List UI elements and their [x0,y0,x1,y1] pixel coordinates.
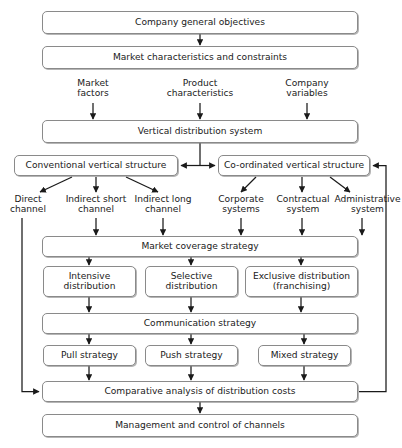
node-label: Management and control of channels [115,421,285,431]
label-market-factors: Market factors [62,78,124,98]
node-label: Intensive distribution [64,272,116,292]
label-line-1: Contractual [277,194,330,204]
node-company-general-objectives[interactable]: Company general objectives [42,11,358,34]
node-comparative-analysis-of-distribution-costs[interactable]: Comparative analysis of distribution cos… [42,381,358,402]
node-label: Communication strategy [144,319,257,329]
feedback-direct-channel-to-comparative [22,218,39,392]
label-line-1: Corporate [218,194,263,204]
label-line-1: Administrative [334,194,400,204]
label-line-2: channel [10,204,46,214]
node-label: Comparative analysis of distribution cos… [104,387,295,397]
node-market-characteristics-and-constraints[interactable]: Market characteristics and constraints [42,46,358,69]
label-line-2: characteristics [167,88,234,98]
label-line-2: factors [77,88,108,98]
arrow-coordinated-to-corporate [241,177,256,192]
label-line-1: Indirect [135,194,169,204]
node-label: Co-ordinated vertical structure [224,161,364,171]
label-direct-channel: Direct channel [0,194,56,214]
label-line-1: Market [77,78,108,88]
node-intensive-distribution[interactable]: Intensive distribution [43,266,136,297]
label-line-1: Indirect [66,194,100,204]
node-pull-strategy[interactable]: Pull strategy [43,345,136,366]
label-line-2: system [351,204,384,214]
node-mixed-strategy[interactable]: Mixed strategy [258,345,351,366]
label-line-2: variables [286,88,327,98]
label-contractual-system: Contractual system [269,194,337,214]
label-corporate-systems: Corporate systems [210,194,272,214]
node-label: Selective distribution [166,272,218,292]
node-label: Push strategy [160,351,222,361]
node-label: Pull strategy [61,351,118,361]
node-label: Company general objectives [135,18,265,28]
node-label: Mixed strategy [271,351,339,361]
node-communication-strategy[interactable]: Communication strategy [42,313,358,334]
node-management-and-control-of-channels[interactable]: Management and control of channels [42,414,358,437]
label-line-1: Product [183,78,218,88]
label-line-1: Direct [14,194,41,204]
node-label: Exclusive distribution (franchising) [253,272,350,292]
node-exclusive-distribution-franchising[interactable]: Exclusive distribution (franchising) [245,266,358,297]
node-label: Conventional vertical structure [26,161,167,171]
node-label: Market coverage strategy [141,242,258,252]
node-push-strategy[interactable]: Push strategy [145,345,238,366]
label-product-characteristics: Product characteristics [157,78,243,98]
flowchart-canvas: Company general objectives Market charac… [0,0,402,448]
label-line-2: system [287,204,320,214]
label-company-variables: Company variables [271,78,343,98]
node-selective-distribution[interactable]: Selective distribution [145,266,238,297]
arrow-coordinated-to-administrative [330,177,350,192]
arrow-conventional-to-indirect-long [126,177,158,192]
label-administrative-system: Administrative system [333,194,402,214]
node-conventional-vertical-structure[interactable]: Conventional vertical structure [14,155,178,176]
label-line-1: Company [285,78,328,88]
node-market-coverage-strategy[interactable]: Market coverage strategy [42,236,358,257]
node-vertical-distribution-system[interactable]: Vertical distribution system [42,120,358,143]
node-co-ordinated-vertical-structure[interactable]: Co-ordinated vertical structure [218,155,370,176]
label-line-2: systems [222,204,260,214]
node-label: Market characteristics and constraints [113,53,287,63]
node-label: Vertical distribution system [138,127,263,137]
label-indirect-long-channel: Indirect long channel [124,194,202,214]
arrow-conventional-to-direct [40,177,72,192]
